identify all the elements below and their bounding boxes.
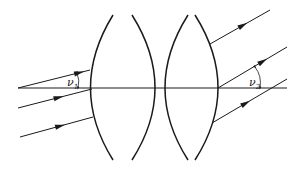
arrowhead-icon <box>53 94 64 102</box>
rays <box>18 10 287 137</box>
incoming-ray-1 <box>18 69 90 88</box>
arrowhead-icon <box>240 98 251 108</box>
angle-label-nu1: ν1 <box>67 76 78 91</box>
arrowhead-icon <box>55 122 66 130</box>
angle-label-nu2: ν2 <box>249 76 261 91</box>
incoming-ray-3 <box>20 117 93 137</box>
two-lens-ray-diagram: ν1 ν2 <box>0 0 301 174</box>
incoming-ray-2 <box>18 89 92 108</box>
arrowhead-icon <box>74 69 85 76</box>
outgoing-ray-1 <box>210 10 270 44</box>
arrowhead-icon <box>257 57 268 67</box>
arrowhead-icon <box>237 21 248 30</box>
